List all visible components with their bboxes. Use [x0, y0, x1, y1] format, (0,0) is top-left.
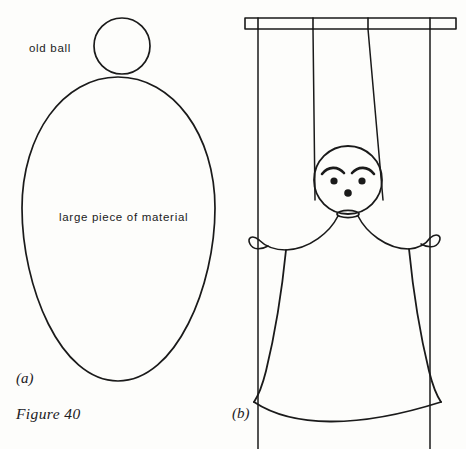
control-bar-ticks [258, 18, 430, 29]
nose [344, 189, 352, 197]
eye-right [358, 177, 365, 184]
figure-illustration: old ball large piece of material (a) (b)… [0, 0, 466, 449]
label-old-ball: old ball [29, 42, 71, 54]
puppet-skirt [254, 250, 286, 402]
puppet-skirt-hem [254, 402, 441, 422]
panel-a-label: (a) [16, 370, 34, 387]
puppet-head [314, 146, 382, 214]
puppet-skirt-right-edge [409, 249, 441, 402]
eyebrow-left [322, 168, 344, 174]
control-bar [245, 18, 456, 29]
panel-b-label: (b) [232, 405, 250, 422]
label-large-piece-of-material: large piece of material [59, 211, 188, 223]
puppet-strings [258, 29, 430, 449]
figure-drawing-canvas [0, 0, 466, 449]
arm-left [259, 216, 338, 250]
material-ellipse [22, 77, 215, 381]
arm-right [358, 216, 430, 249]
eye-left [330, 177, 337, 184]
figure-caption: Figure 40 [16, 405, 81, 423]
panel-a-group [22, 18, 215, 381]
panel-b-group [245, 18, 456, 449]
eyebrow-right [352, 168, 374, 174]
old-ball-circle [94, 18, 150, 74]
